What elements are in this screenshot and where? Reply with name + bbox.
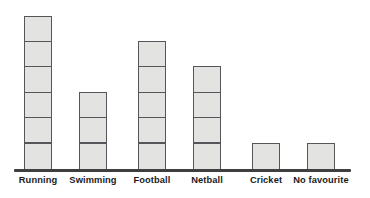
bar-block: [24, 92, 52, 119]
chart-plot-area: [0, 0, 370, 172]
bar-block: [24, 41, 52, 68]
bar-block: [79, 117, 107, 144]
bar-block: [138, 117, 166, 144]
bar-football: [138, 37, 166, 170]
bar-running: [24, 10, 52, 170]
bar-block: [252, 143, 280, 170]
bar-block: [79, 92, 107, 119]
bar-block: [193, 92, 221, 119]
bar-swimming: [79, 90, 107, 170]
x-axis-category-labels: RunningSwimmingFootballNetballCricketNo …: [0, 174, 370, 198]
category-label-running: Running: [19, 174, 57, 186]
bar-block: [24, 66, 52, 93]
bar-block: [24, 117, 52, 144]
bar-block: [24, 16, 52, 43]
bar-no-favourite: [307, 143, 335, 170]
bar-block: [193, 66, 221, 93]
bar-block: [307, 143, 335, 170]
bar-block: [138, 66, 166, 93]
category-label-swimming: Swimming: [69, 174, 116, 186]
bar-block: [24, 143, 52, 170]
bar-block: [193, 117, 221, 144]
bar-block: [138, 143, 166, 170]
category-label-football: Football: [134, 174, 171, 186]
bar-block: [193, 143, 221, 170]
category-label-no-favourite: No favourite: [293, 174, 348, 186]
block-bar-chart: RunningSwimmingFootballNetballCricketNo …: [0, 0, 370, 198]
bar-block: [79, 143, 107, 170]
category-label-cricket: Cricket: [250, 174, 282, 186]
bar-block: [138, 92, 166, 119]
bar-cricket: [252, 143, 280, 170]
bar-netball: [193, 64, 221, 170]
bar-block: [138, 41, 166, 68]
category-label-netball: Netball: [191, 174, 223, 186]
x-axis-line: [14, 169, 351, 172]
